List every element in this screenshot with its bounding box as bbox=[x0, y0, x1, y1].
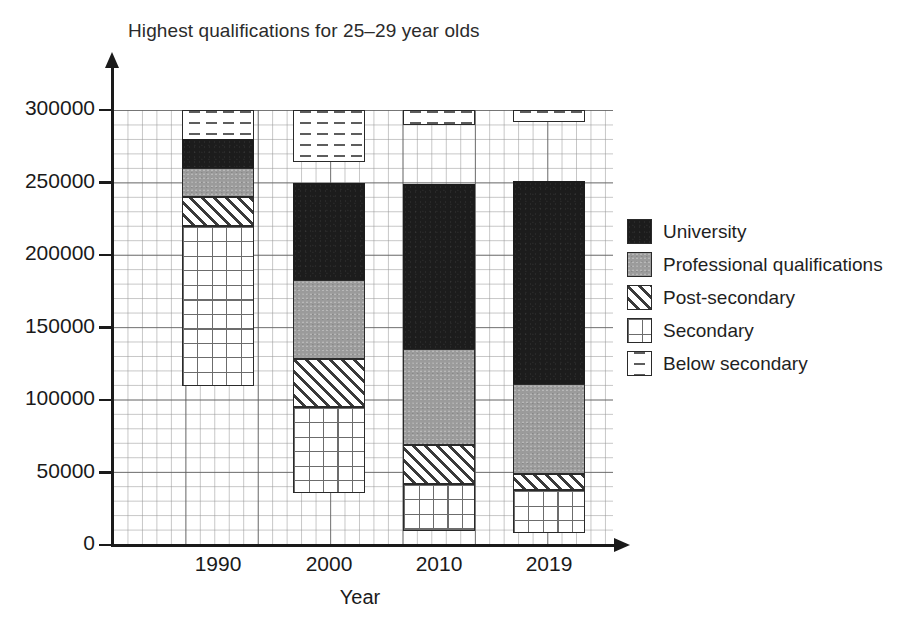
legend-item-label: Secondary bbox=[663, 320, 754, 342]
bar-segment-secondary-2019 bbox=[513, 490, 585, 534]
bar-segment-secondary-2010 bbox=[403, 484, 475, 530]
bar-segment-below-secondary-2000 bbox=[293, 110, 365, 162]
bar-segment-post-secondary-2000 bbox=[293, 359, 365, 407]
y-tick-mark bbox=[99, 254, 113, 257]
y-tick-label: 100000 bbox=[0, 386, 95, 410]
bar-segment-post-secondary-2019 bbox=[513, 474, 585, 490]
bar-segment-below-secondary-2019 bbox=[513, 110, 585, 122]
solid-gray-swatch bbox=[627, 252, 652, 277]
y-tick-label: 0 bbox=[0, 531, 95, 555]
y-tick-label: 50000 bbox=[0, 459, 95, 483]
y-tick-mark bbox=[99, 326, 113, 329]
y-tick-mark bbox=[99, 544, 113, 547]
bar-segment-below-secondary-2010 bbox=[403, 110, 475, 125]
chart-legend: UniversityProfessional qualificationsPos… bbox=[627, 215, 912, 380]
chart-title: Highest qualifications for 25–29 year ol… bbox=[128, 20, 588, 42]
bar-segment-post-secondary-2010 bbox=[403, 445, 475, 484]
y-tick-label: 200000 bbox=[0, 241, 95, 265]
x-axis-title: Year bbox=[280, 586, 440, 609]
bar-segment-professional-qualifications-1990 bbox=[182, 168, 254, 197]
bars-container bbox=[113, 110, 613, 545]
bar-segment-professional-qualifications-2010 bbox=[403, 349, 475, 445]
bar-segment-university-2010 bbox=[403, 184, 475, 349]
chart-figure: Highest qualifications for 25–29 year ol… bbox=[0, 0, 918, 618]
x-tick-label-2019: 2019 bbox=[489, 552, 609, 576]
legend-item-label: Post-secondary bbox=[663, 287, 795, 309]
legend-item-secondary[interactable]: Secondary bbox=[627, 314, 912, 347]
plot-area bbox=[113, 110, 613, 545]
x-axis-arrow-icon bbox=[614, 538, 630, 552]
y-axis-arrow-icon bbox=[105, 52, 119, 68]
y-tick-mark bbox=[99, 399, 113, 402]
grid-crosshatch-swatch bbox=[627, 318, 652, 343]
y-tick-label: 300000 bbox=[0, 96, 95, 120]
x-tick-label-2000: 2000 bbox=[269, 552, 389, 576]
bar-2000 bbox=[293, 110, 365, 545]
dashed-lines-swatch bbox=[627, 351, 652, 376]
solid-black-swatch bbox=[627, 219, 652, 244]
legend-item-label: Below secondary bbox=[663, 353, 808, 375]
y-tick-mark bbox=[99, 471, 113, 474]
bar-segment-secondary-1990 bbox=[182, 226, 254, 386]
bar-segment-professional-qualifications-2019 bbox=[513, 384, 585, 474]
bar-2010 bbox=[403, 110, 475, 545]
bar-segment-professional-qualifications-2000 bbox=[293, 280, 365, 360]
legend-item-label: University bbox=[663, 221, 746, 243]
bar-segment-university-2019 bbox=[513, 181, 585, 384]
legend-item-university[interactable]: University bbox=[627, 215, 912, 248]
legend-item-label: Professional qualifications bbox=[663, 254, 883, 276]
legend-item-below-secondary[interactable]: Below secondary bbox=[627, 347, 912, 380]
x-tick-label-1990: 1990 bbox=[158, 552, 278, 576]
x-axis-line bbox=[111, 544, 621, 547]
legend-item-professional-qualifications[interactable]: Professional qualifications bbox=[627, 248, 912, 281]
x-tick-label-2010: 2010 bbox=[379, 552, 499, 576]
bar-2019 bbox=[513, 110, 585, 545]
y-tick-label: 150000 bbox=[0, 314, 95, 338]
bar-segment-post-secondary-1990 bbox=[182, 197, 254, 226]
y-tick-mark bbox=[99, 109, 113, 112]
bar-segment-university-2000 bbox=[293, 183, 365, 280]
bar-segment-university-1990 bbox=[182, 139, 254, 168]
diagonal-hatch-swatch bbox=[627, 285, 652, 310]
y-tick-mark bbox=[99, 181, 113, 184]
y-axis-line bbox=[111, 66, 114, 547]
legend-item-post-secondary[interactable]: Post-secondary bbox=[627, 281, 912, 314]
bar-segment-secondary-2000 bbox=[293, 407, 365, 493]
bar-1990 bbox=[182, 110, 254, 545]
y-tick-label: 250000 bbox=[0, 169, 95, 193]
